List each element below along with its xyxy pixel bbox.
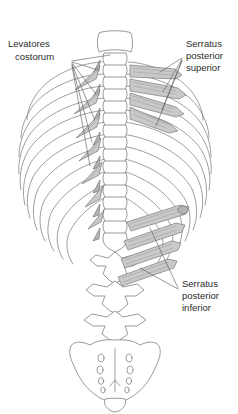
label-sps-line2: posterior: [186, 50, 223, 61]
label-spi-line2: posterior: [182, 290, 219, 301]
label-levatores-line2: costorum: [15, 51, 54, 62]
label-spi-line3: inferior: [182, 302, 211, 313]
anatomy-figure: Levatores costorum Serratus posterior su…: [0, 0, 238, 414]
label-spi-line1: Serratus: [182, 278, 218, 289]
label-serratus-posterior-superior: Serratus posterior superior: [186, 38, 223, 73]
label-sps-line3: superior: [186, 62, 220, 73]
label-levatores-line1: Levatores: [8, 38, 50, 49]
label-sps-line1: Serratus: [186, 38, 222, 49]
anatomy-illustration-svg: Levatores costorum Serratus posterior su…: [0, 0, 238, 414]
